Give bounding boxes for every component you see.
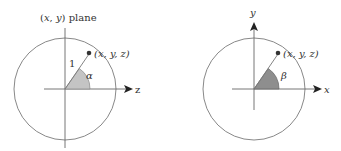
beta-label: β — [280, 70, 287, 81]
point-label-left: (x, y, z) — [94, 48, 130, 59]
left-diagram: (x, y) plane (x, y, z) 1 α z — [14, 12, 140, 148]
x-axis-label: x — [324, 84, 330, 95]
rotation-diagrams: (x, y) plane (x, y, z) 1 α z y (x, y, z)… — [0, 0, 341, 151]
right-diagram: y (x, y, z) β x — [203, 7, 330, 140]
y-axis-label: y — [249, 7, 256, 18]
point-marker-right — [276, 51, 281, 56]
point-marker-left — [87, 51, 92, 56]
alpha-label: α — [86, 70, 93, 81]
radius-label: 1 — [69, 58, 75, 69]
point-label-right: (x, y, z) — [283, 48, 319, 59]
z-axis-label: z — [135, 84, 140, 95]
plane-title: (x, y) plane — [40, 12, 97, 23]
beta-angle-wedge — [254, 69, 279, 90]
